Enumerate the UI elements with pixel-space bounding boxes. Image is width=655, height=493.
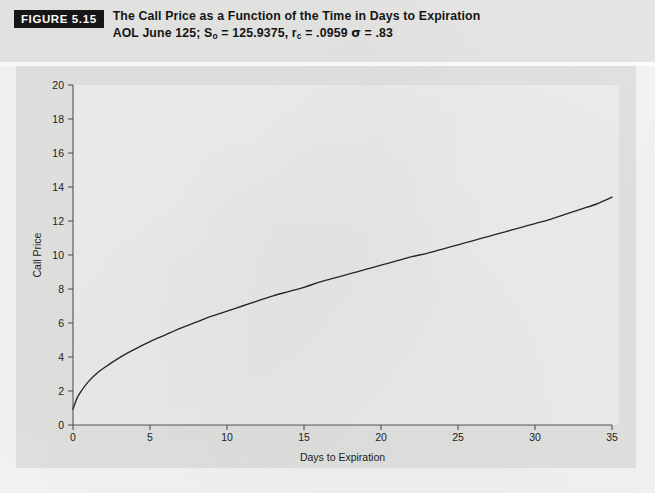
y-axis-tick-label: 4	[58, 351, 64, 363]
x-axis-tick-label: 5	[147, 431, 153, 443]
y-axis-tick-label: 8	[58, 283, 64, 295]
subtitle-mid-1: = 125.9375, r	[218, 26, 297, 40]
y-axis-tick-group: 02468101214161820	[52, 79, 73, 431]
x-axis-tick-label: 35	[606, 431, 618, 443]
figure-subtitle: AOL June 125; So = 125.9375, rc = .0959 …	[113, 25, 481, 44]
figure-header-content: FIGURE 5.15 The Call Price as a Function…	[14, 9, 480, 44]
y-axis-tick-label: 20	[52, 79, 64, 91]
x-axis-tick-label: 20	[375, 431, 387, 443]
subtitle-sigma-symbol: σ	[351, 26, 361, 40]
x-axis-tick-group: 05101520253035	[70, 425, 618, 443]
figure-header: FIGURE 5.15 The Call Price as a Function…	[0, 0, 655, 62]
x-axis-tick-label: 10	[221, 431, 233, 443]
y-axis-tick-label: 2	[58, 385, 64, 397]
x-axis-tick-label: 25	[452, 431, 464, 443]
y-axis-tick-label: 12	[52, 215, 64, 227]
y-axis-tick-label: 16	[52, 147, 64, 159]
figure-title-block: The Call Price as a Function of the Time…	[113, 9, 481, 44]
figure-number-badge: FIGURE 5.15	[14, 10, 104, 28]
x-axis-tick-label: 0	[70, 431, 76, 443]
subtitle-lead: AOL June 125; S	[113, 26, 213, 40]
figure-title: The Call Price as a Function of the Time…	[113, 9, 481, 24]
y-axis-title: Call Price	[31, 232, 43, 277]
y-axis-tick-label: 6	[58, 317, 64, 329]
y-axis-tick-label: 14	[52, 181, 64, 193]
chart-panel: 02468101214161820 05101520253035 Days to…	[16, 66, 636, 468]
y-axis-tick-label: 10	[52, 249, 64, 261]
y-axis-tick-label: 0	[58, 419, 64, 431]
subtitle-mid-2: = .0959	[302, 26, 352, 40]
y-axis-tick-label: 18	[52, 113, 64, 125]
x-axis-title: Days to Expiration	[300, 451, 385, 463]
subtitle-tail: = .83	[361, 26, 393, 40]
x-axis-tick-label: 15	[298, 431, 310, 443]
call-price-line-chart: 02468101214161820 05101520253035 Days to…	[16, 66, 636, 468]
call-price-curve	[73, 197, 612, 409]
x-axis-tick-label: 30	[529, 431, 541, 443]
